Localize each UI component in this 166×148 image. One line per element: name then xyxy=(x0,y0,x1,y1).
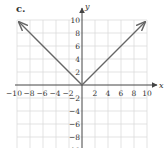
y-tick: −10 xyxy=(64,146,80,148)
x-tick: 2 xyxy=(93,89,98,98)
x-tick: 8 xyxy=(132,89,137,98)
y-tick: 8 xyxy=(75,29,80,38)
y-tick: −4 xyxy=(69,107,80,116)
x-tick: −4 xyxy=(49,89,60,98)
y-tick-labels: 10 8 6 4 2 −2 −4 −6 −8 −10 xyxy=(64,16,80,148)
x-tick: −8 xyxy=(23,89,34,98)
x-tick: −6 xyxy=(36,89,47,98)
y-tick: −8 xyxy=(69,133,80,142)
y-tick: 6 xyxy=(75,42,80,51)
graph-figure: c. y x −10 −8 −6 −4 −2 2 4 6 8 10 10 8 6… xyxy=(0,0,166,148)
x-tick: −10 xyxy=(6,89,22,98)
y-tick: 2 xyxy=(75,68,80,77)
y-axis-label: y xyxy=(84,2,90,11)
x-tick: 6 xyxy=(119,89,124,98)
x-tick: 4 xyxy=(106,89,111,98)
figure-label: c. xyxy=(16,3,26,14)
x-axis-label: x xyxy=(159,81,164,90)
x-tick: 10 xyxy=(142,89,152,98)
y-tick: 4 xyxy=(75,55,80,64)
y-tick: 10 xyxy=(70,16,80,25)
y-tick: −2 xyxy=(69,94,80,103)
y-tick: −6 xyxy=(69,120,80,129)
